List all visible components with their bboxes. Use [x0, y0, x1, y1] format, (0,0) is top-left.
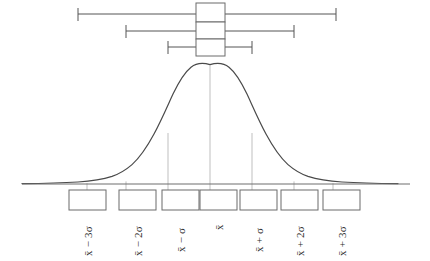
interval-box-stack [196, 3, 225, 56]
tick-box-group [69, 190, 360, 210]
axis-label-minus-3-sigma: x̄ − 3σ [82, 226, 94, 256]
interval-box-top[interactable] [196, 3, 225, 22]
tick-box-plus-3-sigma[interactable] [323, 190, 360, 210]
interval-box-bottom[interactable] [196, 39, 225, 56]
interval-box-middle[interactable] [196, 22, 225, 39]
tick-box-minus-3-sigma[interactable] [69, 190, 106, 210]
axis-label-plus-2-sigma: x̄ + 2σ [294, 226, 306, 256]
axis-label-minus-2-sigma: x̄ − 2σ [132, 226, 144, 256]
axis-label-minus-1-sigma: x̄ − σ [175, 228, 187, 252]
axis-label-plus-1-sigma: x̄ + σ [253, 228, 265, 252]
axis-label-group: x̄ − 3σ x̄ − 2σ x̄ − σ x̄ x̄ + σ x̄ + 2σ… [82, 224, 348, 256]
tick-box-plus-2-sigma[interactable] [281, 190, 318, 210]
tick-box-mean[interactable] [200, 190, 237, 210]
normal-distribution-diagram: x̄ − 3σ x̄ − 2σ x̄ − σ x̄ x̄ + σ x̄ + 2σ… [0, 0, 430, 261]
tick-box-plus-1-sigma[interactable] [240, 190, 277, 210]
axis-label-mean: x̄ [213, 224, 225, 230]
tick-box-minus-2-sigma[interactable] [119, 190, 156, 210]
tick-box-minus-1-sigma[interactable] [162, 190, 199, 210]
axis-label-plus-3-sigma: x̄ + 3σ [336, 226, 348, 256]
